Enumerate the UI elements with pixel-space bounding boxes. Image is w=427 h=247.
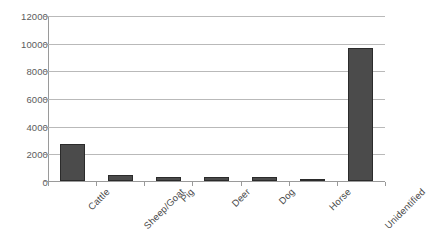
y-axis-tick-label: 6000 <box>4 95 48 104</box>
bar-slot <box>241 16 289 181</box>
y-axis-tick-label: 2000 <box>4 150 48 159</box>
bar-slot <box>289 16 337 181</box>
bar-slot <box>337 16 385 181</box>
x-axis-tick-label: Dog <box>276 186 297 207</box>
y-axis-tick-label: 0 <box>4 178 48 187</box>
bar-slot <box>48 16 96 181</box>
bar-slot <box>96 16 144 181</box>
y-axis-tick-label: 4000 <box>4 123 48 132</box>
bar-series <box>48 16 385 181</box>
x-axis-tick-label: Deer <box>229 186 252 209</box>
bar-slot <box>144 16 192 181</box>
x-axis-tick-label: Horse <box>326 186 352 212</box>
y-axis-tick-label: 10000 <box>4 40 48 49</box>
plot-area <box>48 16 385 182</box>
bar[interactable] <box>60 144 85 181</box>
bar-slot <box>192 16 240 181</box>
y-axis-tick-label: 8000 <box>4 67 48 76</box>
x-axis-tick-label: Unidentified <box>382 186 427 231</box>
x-axis-tick-label: Cattle <box>86 186 112 212</box>
x-axis-labels: CattleSheep/GoatPigDeerDogHorseUnidentif… <box>48 186 385 247</box>
x-tick-mark <box>385 182 386 186</box>
bar[interactable] <box>348 48 373 181</box>
y-axis-tick-label: 12000 <box>4 12 48 21</box>
